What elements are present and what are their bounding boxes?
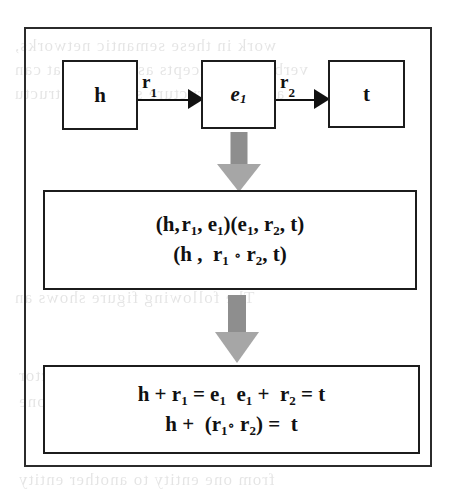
triple-chain-row: h r1 e1 r2 t [26,29,434,134]
relation-label-r2: r2 [280,71,295,97]
figure-outer-frame: h r1 e1 r2 t (h, r1, e1)(e1, r2, t) (h ,… [24,27,432,467]
relation-arrow-r1: r1 [136,75,206,115]
translation-line-1: h + r1 = e1 e1 + r2 = t [138,380,326,410]
down-arrow-icon [214,295,260,363]
arrow-shaft [231,132,248,165]
translation-equations-panel: h + r1 = e1 e1 + r2 = t h + (r1∘ r2) = t [43,365,420,454]
composition-line-1: (h, r1, e1)(e1, r2, t) [156,210,304,240]
arrow-shaft [228,295,246,333]
node-head-entity: h [62,60,138,130]
relation-label-r1: r1 [142,71,157,97]
node-head-label: h [94,83,106,108]
node-intermediate-entity: e1 [201,60,276,129]
node-intermediate-subscript: 1 [240,91,247,107]
down-arrow-icon [217,132,261,192]
node-tail-entity: t [328,60,405,128]
node-tail-label: t [363,82,370,107]
composition-triples-panel: (h, r1, e1)(e1, r2, t) (h , r1 ∘ r2, t) [43,190,417,290]
arrow-head [217,164,261,192]
composition-line-2: (h , r1 ∘ r2, t) [173,240,287,270]
bleed-text-line: from one entity to another entity [18,470,275,490]
arrow-head [215,332,259,363]
node-intermediate-label: e [231,82,240,107]
relation-arrow-r2: r2 [274,75,332,115]
translation-line-2: h + (r1∘ r2) = t [165,410,297,440]
relation-arrow-shaft [138,99,194,101]
